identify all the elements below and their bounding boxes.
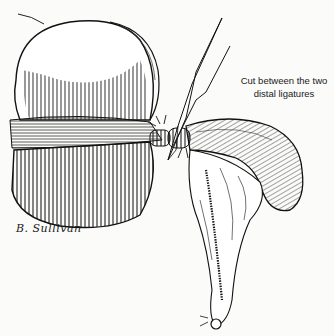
artist-signature: B. Sullivan (16, 222, 82, 235)
surgical-illustration (0, 0, 334, 336)
lower-lobe (12, 142, 153, 228)
caption-line-2: distal ligatures (236, 87, 332, 100)
mesentery (189, 150, 262, 329)
caption-line-1: Cut between the two (236, 74, 332, 87)
annotation-caption: Cut between the two distal ligatures (236, 74, 332, 100)
upper-lobe (15, 21, 159, 120)
